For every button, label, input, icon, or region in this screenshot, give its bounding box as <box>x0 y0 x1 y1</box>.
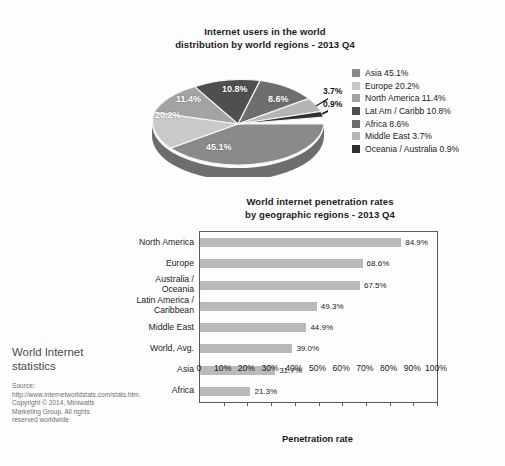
pie-label-north-america: 11.4% <box>176 94 201 104</box>
x-axis-tick-label: 100% <box>420 363 452 373</box>
pie-legend: Asia 45.1% Europe 20.2% North America 11… <box>352 67 502 155</box>
side-caption-heading: World Internet statistics <box>12 345 110 373</box>
pie-label-asia: 45.1% <box>206 142 232 152</box>
bar <box>200 238 401 247</box>
legend-swatch-icon <box>352 132 360 140</box>
legend-item: Africa 8.6% <box>352 117 502 130</box>
bar-value-label: 44.9% <box>310 323 333 332</box>
pie-chart-graphic: 45.1% 20.2% 11.4% 10.8% 8.6% <box>148 62 328 177</box>
bar <box>200 259 363 268</box>
legend-item: Europe 20.2% <box>352 80 502 93</box>
x-axis-tick <box>295 402 296 406</box>
x-axis-tick <box>390 402 391 406</box>
legend-item: Lat Am / Caribb 10.8% <box>352 105 502 118</box>
bar <box>200 281 360 290</box>
pie-chart-title: Internet users in the world distribution… <box>150 26 380 51</box>
legend-label: Africa 8.6% <box>365 119 409 129</box>
legend-item: North America 11.4% <box>352 92 502 105</box>
legend-label: Middle East 3.7% <box>365 131 432 141</box>
bar <box>200 323 306 332</box>
pie-title-line-2: distribution by world regions - 2013 Q4 <box>150 39 380 52</box>
bar-value-label: 49.3% <box>321 302 344 311</box>
x-axis-tick <box>437 402 438 406</box>
legend-swatch-icon <box>352 145 360 153</box>
bar-category-label: North America <box>84 237 194 247</box>
pie-label-middle-east: 3.7% <box>323 86 342 96</box>
bar <box>200 302 317 311</box>
bar-value-label: 67.5% <box>364 281 387 290</box>
bar <box>200 344 292 353</box>
bar-value-label: 84.9% <box>405 238 428 247</box>
legend-swatch-icon <box>352 107 360 115</box>
x-axis-tick <box>271 402 272 406</box>
x-axis-title: Penetration rate <box>199 434 436 444</box>
x-axis-tick <box>366 402 367 406</box>
legend-label: Oceania / Australia 0.9% <box>365 144 459 154</box>
bar-plot-area: 84.9%68.6%67.5%49.3%44.9%39.0%31.7%21.3% <box>199 231 438 403</box>
legend-label: Europe 20.2% <box>365 81 419 91</box>
legend-label: Asia 45.1% <box>365 68 408 78</box>
legend-swatch-icon <box>352 82 360 90</box>
pie-title-line-1: Internet users in the world <box>150 26 380 39</box>
bar-value-label: 21.3% <box>254 387 277 396</box>
pie-chart-section: Internet users in the world distribution… <box>0 0 505 185</box>
x-axis-tick <box>319 402 320 406</box>
legend-swatch-icon <box>352 120 360 128</box>
pie-label-europe: 20.2% <box>155 110 181 120</box>
pie-label-oceania: 0.9% <box>323 99 342 109</box>
bar-title-line-1: World internet penetration rates <box>200 196 440 209</box>
x-axis-tick <box>247 402 248 406</box>
x-axis-tick <box>224 402 225 406</box>
legend-label: North America 11.4% <box>365 93 446 103</box>
bar-value-label: 68.6% <box>367 259 390 268</box>
side-caption: World Internet statistics Source: http:/… <box>12 345 110 425</box>
bar-category-label: Europe <box>84 258 194 268</box>
bar-chart-title: World internet penetration rates by geog… <box>200 196 440 221</box>
pie-label-latam: 10.8% <box>222 84 248 94</box>
x-axis-tick <box>413 402 414 406</box>
legend-label: Lat Am / Caribb 10.8% <box>365 106 451 116</box>
legend-item: Oceania / Australia 0.9% <box>352 143 502 156</box>
legend-swatch-icon <box>352 69 360 77</box>
x-axis-tick <box>342 402 343 406</box>
bar <box>200 387 250 396</box>
legend-item: Middle East 3.7% <box>352 130 502 143</box>
pie-label-africa: 8.6% <box>268 94 289 104</box>
side-caption-source: Source: http://www.internetworldstats.co… <box>12 382 110 425</box>
legend-item: Asia 45.1% <box>352 67 502 80</box>
bar-category-label: Middle East <box>84 322 194 332</box>
bar-value-label: 39.0% <box>296 344 319 353</box>
bar-category-label: Latin America /Caribbean <box>84 295 194 315</box>
bar-title-line-2: by geographic regions - 2013 Q4 <box>200 209 440 222</box>
infographic-page: Internet users in the world distribution… <box>0 0 505 466</box>
bar-category-label: Australia /Oceania <box>84 274 194 294</box>
legend-swatch-icon <box>352 94 360 102</box>
